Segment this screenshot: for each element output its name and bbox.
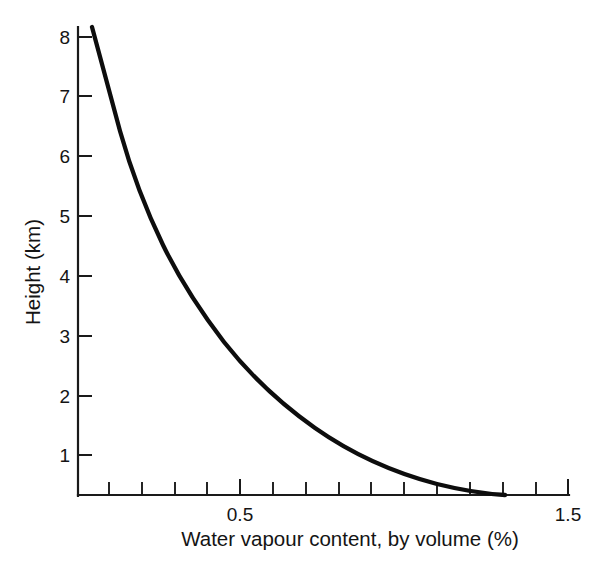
- y-axis-tick-labels: 8 7 6 5 4 3 2 1: [59, 27, 70, 466]
- y-tick-label-4: 4: [59, 266, 70, 287]
- y-axis-ticks: [78, 37, 92, 455]
- figure-caption-strip: [0, 558, 608, 572]
- y-axis-title: Height (km): [21, 219, 44, 325]
- figure-container: 8 7 6 5 4 3 2 1: [0, 0, 608, 572]
- y-tick-label-5: 5: [59, 206, 70, 227]
- x-tick-label-1-5: 1.5: [555, 504, 581, 525]
- y-tick-label-3: 3: [59, 326, 70, 347]
- x-axis-title: Water vapour content, by volume (%): [181, 527, 519, 550]
- x-tick-label-0-5: 0.5: [227, 504, 253, 525]
- y-tick-label-6: 6: [59, 146, 70, 167]
- chart-plot: 8 7 6 5 4 3 2 1: [0, 0, 608, 572]
- y-tick-label-1: 1: [59, 445, 70, 466]
- y-tick-label-2: 2: [59, 386, 70, 407]
- y-tick-label-7: 7: [59, 86, 70, 107]
- water-vapour-curve: [92, 27, 505, 495]
- y-tick-label-8: 8: [59, 27, 70, 48]
- x-axis-tick-labels: 0.5 1.5: [227, 504, 581, 525]
